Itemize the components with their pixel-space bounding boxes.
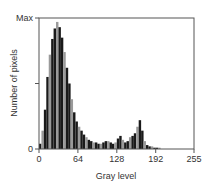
histogram-bar — [129, 137, 131, 149]
x-axis-title: Gray level — [96, 171, 137, 181]
histogram-bar — [122, 140, 124, 149]
histogram-bar — [124, 142, 126, 149]
histogram-bar — [102, 142, 104, 149]
y-tick-label: 0 — [28, 144, 33, 154]
histogram-bar — [88, 140, 90, 149]
histogram-bar — [117, 139, 119, 149]
histogram-bar — [112, 144, 114, 149]
histogram-chart: 0Max 064128192255 Gray level Number of p… — [0, 0, 213, 189]
histogram-bar — [46, 77, 48, 149]
histogram-bar — [105, 141, 107, 149]
histogram-bar — [107, 141, 109, 149]
x-axis: 064128192255 — [36, 149, 201, 164]
histogram-bar — [95, 142, 97, 149]
histogram-bar — [90, 141, 92, 149]
histogram-bar — [49, 55, 51, 149]
histogram-bar — [141, 131, 143, 149]
histogram-bar — [100, 144, 102, 149]
x-tick-label: 0 — [36, 154, 41, 164]
histogram-bar — [61, 38, 63, 149]
histogram-bar — [127, 141, 129, 149]
histogram-bar — [136, 127, 138, 149]
histogram-bar — [56, 22, 58, 149]
x-tick-label: 64 — [73, 154, 83, 164]
histogram-bar — [41, 131, 43, 149]
x-tick-label: 128 — [109, 154, 124, 164]
x-tick-label: 192 — [148, 154, 163, 164]
histogram-bar — [97, 144, 99, 149]
histogram-bar — [63, 52, 65, 149]
histogram-bar — [75, 121, 77, 149]
histogram-bar — [80, 131, 82, 149]
histogram-bar — [51, 39, 53, 149]
histogram-bar — [114, 142, 116, 149]
histogram-bar — [44, 110, 46, 149]
histogram-bar — [54, 28, 56, 149]
histogram-bar — [83, 135, 85, 149]
histogram-bar — [144, 141, 146, 149]
histogram-bar — [68, 84, 70, 150]
histogram-bar — [110, 142, 112, 149]
histogram-bar — [119, 136, 121, 149]
y-axis-title: Number of pixels — [9, 49, 19, 117]
histogram-bar — [78, 127, 80, 149]
histogram-bar — [146, 145, 148, 149]
histogram-bar — [73, 112, 75, 149]
histogram-bar — [66, 68, 68, 149]
histogram-bar — [71, 99, 73, 149]
histogram-bar — [58, 27, 60, 149]
histogram-bar — [85, 137, 87, 149]
histogram-bar — [92, 142, 94, 149]
histogram-bar — [134, 133, 136, 149]
x-tick-label: 255 — [186, 154, 201, 164]
histogram-bar — [139, 120, 141, 149]
histogram-bar — [131, 136, 133, 149]
y-tick-label: Max — [16, 13, 34, 23]
histogram-bars — [39, 22, 161, 149]
y-axis: 0Max — [16, 13, 39, 154]
